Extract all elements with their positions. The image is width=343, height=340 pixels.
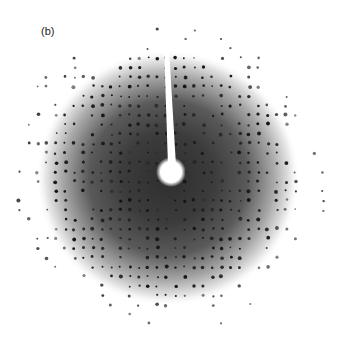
diffraction-spot: [136, 122, 139, 125]
diffraction-spot: [109, 160, 113, 164]
diffraction-spot: [118, 132, 121, 135]
diffraction-spot: [239, 162, 241, 164]
diffraction-spot: [90, 95, 93, 98]
diffraction-spot: [267, 142, 270, 145]
diffraction-spot: [221, 227, 224, 230]
diffraction-spot: [138, 66, 141, 69]
diffraction-spot: [210, 236, 214, 240]
diffraction-spot: [322, 210, 324, 212]
diffraction-spot: [211, 161, 214, 164]
diffraction-spot: [81, 189, 85, 193]
diffraction-spot: [256, 218, 260, 222]
diffraction-spot: [54, 104, 56, 106]
diffraction-spot: [165, 294, 167, 296]
diffraction-spot: [285, 189, 287, 191]
diffraction-spot: [91, 114, 93, 116]
diffraction-spot: [276, 152, 278, 154]
diffraction-spot: [157, 219, 159, 221]
diffraction-spot: [82, 237, 86, 241]
diffraction-spot: [110, 104, 112, 106]
diffraction-spot: [285, 228, 288, 231]
diffraction-spot: [110, 275, 113, 278]
diffraction-spot: [211, 85, 213, 87]
diffraction-spot: [230, 209, 232, 211]
diffraction-spot: [221, 57, 224, 60]
diffraction-spot: [18, 209, 20, 211]
diffraction-spot: [175, 209, 178, 212]
diffraction-spot: [110, 228, 112, 230]
diffraction-spot: [146, 161, 150, 165]
diffraction-spot: [37, 142, 40, 145]
diffraction-spot: [82, 104, 85, 107]
diffraction-spot: [128, 198, 132, 202]
diffraction-spot: [238, 256, 242, 260]
diffraction-spot: [55, 199, 58, 202]
diffraction-spot: [138, 181, 141, 184]
diffraction-spot: [101, 114, 105, 118]
diffraction-spot: [82, 246, 85, 249]
diffraction-spot: [266, 236, 270, 240]
diffraction-spot: [193, 57, 195, 59]
diffraction-spot: [16, 199, 20, 203]
diffraction-spot: [193, 141, 196, 144]
diffraction-spot: [136, 132, 140, 136]
diffraction-spot: [275, 256, 278, 259]
diffraction-spot: [119, 275, 123, 279]
diffraction-spot: [136, 141, 139, 144]
diffraction-spot: [109, 304, 112, 307]
diffraction-spot: [156, 294, 158, 296]
diffraction-spot: [100, 172, 102, 174]
diffraction-spot: [74, 77, 76, 79]
diffraction-spot: [286, 96, 288, 98]
diffraction-spot: [257, 66, 259, 68]
diffraction-spot: [63, 151, 66, 154]
diffraction-spot: [294, 114, 296, 116]
diffraction-spot: [100, 103, 104, 107]
diffraction-spot: [118, 104, 121, 107]
diffraction-spot: [322, 200, 324, 202]
diffraction-spot: [174, 67, 177, 70]
diffraction-spot: [237, 151, 241, 155]
diffraction-spot: [184, 229, 186, 231]
diffraction-spot: [230, 151, 232, 153]
diffraction-spot: [219, 274, 223, 278]
diffraction-spot: [228, 86, 231, 89]
diffraction-spot: [91, 171, 94, 174]
diffraction-spot: [212, 199, 214, 201]
diffraction-spot: [119, 266, 121, 268]
diffraction-spot: [247, 237, 250, 240]
diffraction-spot: [212, 247, 215, 250]
diffraction-spot: [230, 256, 233, 259]
diffraction-spot: [265, 228, 269, 232]
diffraction-spot: [111, 267, 113, 269]
diffraction-spot: [266, 122, 270, 126]
diffraction-spot: [64, 199, 67, 202]
diffraction-spot: [229, 266, 232, 269]
diffraction-spot: [138, 57, 141, 60]
diffraction-spot: [258, 171, 260, 173]
diffraction-spot: [219, 133, 223, 137]
diffraction-spot: [211, 276, 215, 280]
diffraction-spot: [74, 257, 77, 260]
diffraction-spot: [156, 27, 159, 30]
diffraction-spot: [247, 228, 250, 231]
diffraction-spot: [183, 200, 186, 203]
diffraction-spot: [174, 95, 177, 98]
diffraction-spot: [175, 285, 178, 288]
diffraction-spot: [54, 171, 57, 174]
diffraction-spot: [157, 276, 159, 278]
diffraction-spot: [164, 257, 166, 259]
diffraction-spot: [192, 113, 196, 117]
diffraction-spot: [128, 161, 131, 164]
diffraction-spot: [37, 112, 41, 116]
diffraction-spot: [129, 238, 132, 241]
diffraction-spot: [248, 170, 251, 173]
diffraction-spot: [257, 161, 259, 163]
diffraction-spot: [247, 161, 250, 164]
diffraction-spot: [147, 75, 150, 78]
diffraction-spot: [119, 228, 122, 231]
diffraction-spot: [276, 182, 278, 184]
diffraction-spot: [174, 84, 178, 88]
diffraction-spot: [110, 142, 113, 145]
diffraction-spot: [55, 228, 58, 231]
